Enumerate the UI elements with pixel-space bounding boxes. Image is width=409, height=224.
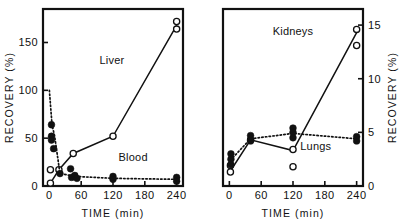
data-point-liver [174, 26, 180, 32]
x-axis-tick-label: 240 [347, 189, 367, 201]
x-axis-tick-label: 0 [46, 189, 53, 201]
data-point-lungs [247, 138, 254, 145]
x-axis-tick-label: 240 [167, 189, 187, 201]
data-point-kidneys [290, 164, 296, 170]
data-point-kidneys [227, 169, 233, 175]
chart-panel-right: 060120180240051015TIME (min)RECOVERY (%)… [205, 0, 409, 224]
data-point-blood [74, 175, 81, 182]
data-point-liver [47, 180, 53, 186]
y-axis-title: RECOVERY (%) [3, 52, 15, 143]
x-axis-tick-label: 0 [226, 189, 233, 201]
x-axis-tick-label: 60 [255, 189, 268, 201]
plot-frame [43, 9, 183, 186]
x-axis-tick-label: 120 [103, 189, 123, 201]
y-axis-tick-label: 0 [31, 180, 38, 192]
data-point-lungs [228, 161, 235, 168]
x-axis-title: TIME (min) [262, 207, 325, 219]
y-axis-title: RECOVERY (%) [386, 52, 398, 143]
x-axis-tick-label: 180 [135, 189, 155, 201]
figure-root: 060120180240050100150TIME (min)RECOVERY … [0, 0, 409, 224]
x-axis-tick-label: 120 [283, 189, 303, 201]
chart-panel-left: 060120180240050100150TIME (min)RECOVERY … [0, 0, 205, 224]
series-label-kidneys: Kidneys [273, 25, 314, 37]
data-point-blood [48, 121, 55, 128]
data-point-kidneys [354, 26, 360, 32]
series-line-liver [50, 25, 176, 183]
y-axis-tick-label: 15 [368, 19, 381, 31]
data-point-liver [47, 167, 53, 173]
data-point-blood [110, 176, 117, 183]
x-axis-tick-label: 180 [315, 189, 335, 201]
data-point-blood [173, 178, 180, 185]
y-axis-tick-label: 10 [368, 73, 381, 85]
data-point-lungs [290, 134, 297, 141]
series-label-lungs: Lungs [300, 140, 331, 152]
data-point-liver [70, 150, 76, 156]
series-label-blood: Blood [119, 151, 148, 163]
x-axis-tick-label: 60 [75, 189, 88, 201]
x-axis-title: TIME (min) [82, 207, 145, 219]
data-point-kidneys [290, 146, 296, 152]
series-label-liver: Liver [100, 54, 125, 66]
data-point-liver [110, 133, 116, 139]
data-point-blood [48, 137, 55, 144]
y-axis-tick-label: 5 [368, 126, 375, 138]
plot-svg-left: 060120180240050100150TIME (min)RECOVERY … [0, 0, 205, 224]
data-point-liver [174, 18, 180, 24]
data-point-kidneys [354, 42, 360, 48]
y-axis-tick-label: 50 [25, 132, 38, 144]
data-point-blood [50, 145, 57, 152]
data-point-blood [67, 165, 74, 172]
plot-svg-right: 060120180240051015TIME (min)RECOVERY (%)… [205, 0, 409, 224]
y-axis-tick-label: 0 [368, 180, 375, 192]
data-point-lungs [353, 138, 360, 145]
data-point-blood [57, 170, 64, 177]
y-axis-tick-label: 150 [18, 36, 38, 48]
y-axis-tick-label: 100 [18, 84, 38, 96]
